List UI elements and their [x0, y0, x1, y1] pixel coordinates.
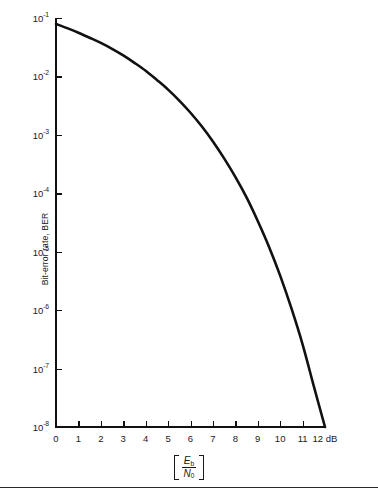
x-tick-label: 4	[143, 433, 148, 444]
y-tick-label: 10-2	[33, 71, 49, 82]
x-tick-label: 8	[233, 433, 238, 444]
y-tick-label: 10-4	[33, 188, 49, 199]
y-axis-title: Bit-error rate, BER	[40, 213, 50, 286]
y-tick-label: 10-7	[33, 363, 49, 374]
y-tick-label: 10-8	[33, 422, 49, 433]
x-tick-label: 5	[165, 433, 170, 444]
denominator-symbol: N	[184, 468, 191, 479]
x-tick-label: 7	[210, 433, 215, 444]
plot-area: 10-110-210-310-410-510-610-710-8 0123456…	[56, 18, 325, 427]
x-tick-label: 0	[53, 433, 58, 444]
ber-curve-path	[56, 24, 325, 427]
x-tick-label: 12 dB	[313, 433, 338, 444]
x-tick-label: 3	[121, 433, 126, 444]
x-tick-label: 1	[76, 433, 81, 444]
y-tick-label: 10-6	[33, 305, 49, 316]
bracket-right-icon	[199, 455, 204, 480]
eb-n0-expression: Eb N0	[174, 455, 205, 480]
bracket-left-icon	[174, 455, 179, 480]
y-tick-label: 10-3	[33, 129, 49, 140]
x-tick-label: 9	[255, 433, 260, 444]
fraction-denominator: N0	[182, 467, 197, 479]
ber-chart-figure: 10-110-210-310-410-510-610-710-8 0123456…	[0, 0, 378, 497]
x-axis-title: Eb N0	[0, 455, 378, 480]
x-tick-label: 2	[98, 433, 103, 444]
eb-over-n0-fraction: Eb N0	[182, 455, 197, 480]
ber-curve-svg	[56, 18, 325, 427]
numerator-subscript: b	[191, 460, 195, 467]
footer-divider	[0, 487, 378, 488]
x-tick-label: 10	[275, 433, 286, 444]
numerator-symbol: E	[184, 455, 191, 466]
y-tick-mark	[56, 427, 62, 428]
x-tick-label: 11	[298, 433, 308, 444]
fraction-numerator: Eb	[182, 456, 196, 467]
x-tick-label: 6	[188, 433, 193, 444]
denominator-subscript: 0	[191, 472, 195, 479]
y-tick-label: 10-1	[33, 13, 49, 24]
